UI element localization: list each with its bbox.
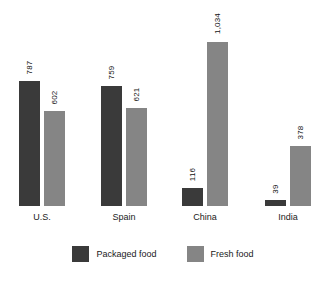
legend-swatch-fresh-food [187,246,204,262]
bar-rect [44,111,65,206]
category-label-china: China [182,212,228,223]
bar-packaged-spain[interactable]: 759 [101,0,122,206]
bar-rect [126,108,147,206]
bar-fresh-china[interactable]: 1,034 [207,0,228,206]
bar-value-label: 602 [44,86,65,109]
category-label-u-s: U.S. [19,212,65,223]
bar-value-text: 1,034 [201,13,234,34]
bar-rect [182,188,203,206]
plot-area: 7876027596211161,03439378 [0,0,326,206]
bar-fresh-u-s[interactable]: 602 [44,0,65,206]
category-axis: U.S.SpainChinaIndia [0,206,326,230]
bar-packaged-china[interactable]: 116 [182,0,203,206]
bar-value-text: 759 [100,66,123,80]
bar-value-text: 602 [43,91,66,105]
grouped-bar-chart: 7876027596211161,03439378 U.S.SpainChina… [0,0,326,281]
bar-value-label: 378 [290,121,311,144]
legend-label: Packaged food [96,249,156,260]
bar-value-label: 39 [265,180,286,198]
legend-label: Fresh food [211,249,254,260]
bar-value-text: 787 [18,61,41,75]
bar-rect [19,81,40,206]
bar-group-u-s: 787602 [19,0,65,206]
bar-value-text: 39 [267,184,285,193]
bar-value-text: 621 [125,88,148,102]
bar-rect [101,86,122,206]
bar-value-label: 116 [182,163,203,186]
bar-value-label: 621 [126,83,147,106]
bar-value-label: 759 [101,61,122,84]
bar-value-label: 787 [19,56,40,79]
bar-packaged-u-s[interactable]: 787 [19,0,40,206]
chart-legend: Packaged foodFresh food [0,243,326,265]
bar-group-china: 1161,034 [182,0,228,206]
bar-fresh-spain[interactable]: 621 [126,0,147,206]
bar-fresh-india[interactable]: 378 [290,0,311,206]
bar-value-label: 1,034 [207,7,228,40]
bar-rect [207,42,228,206]
category-label-spain: Spain [101,212,147,223]
bar-value-text: 378 [289,126,312,140]
category-label-india: India [265,212,311,223]
bar-group-india: 39378 [265,0,311,206]
bar-group-spain: 759621 [101,0,147,206]
legend-item-packaged[interactable]: Packaged food [72,246,156,262]
legend-item-fresh[interactable]: Fresh food [187,246,254,262]
legend-swatch-packaged-food [72,246,89,262]
bar-packaged-india[interactable]: 39 [265,0,286,206]
bar-value-text: 116 [181,168,204,181]
bar-rect [290,146,311,206]
